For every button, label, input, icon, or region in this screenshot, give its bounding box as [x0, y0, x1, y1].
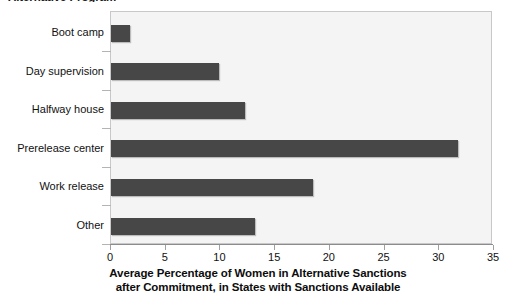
x-axis-tick-label: 0 — [90, 251, 130, 263]
y-axis-label: Work release — [0, 180, 104, 193]
bar — [111, 102, 245, 119]
x-axis-title: Average Percentage of Women in Alternati… — [0, 266, 516, 294]
bar — [111, 63, 219, 80]
x-axis-title-line2: after Commitment, in States with Sanctio… — [0, 280, 516, 294]
x-axis-tick-label: 35 — [473, 251, 513, 263]
plot-area — [110, 11, 492, 244]
x-axis-tick — [329, 245, 330, 250]
x-axis-tick — [165, 245, 166, 250]
x-axis-tick — [219, 245, 220, 250]
x-axis-tick-label: 25 — [364, 251, 404, 263]
bar — [111, 25, 130, 42]
x-axis-tick — [493, 245, 494, 250]
x-axis-tick — [274, 245, 275, 250]
x-axis-line — [110, 244, 493, 245]
x-axis-tick-label: 30 — [418, 251, 458, 263]
x-axis-tick-label: 20 — [309, 251, 349, 263]
x-axis-tick-label: 10 — [199, 251, 239, 263]
x-axis-tick-label: 15 — [254, 251, 294, 263]
x-axis-title-line1: Average Percentage of Women in Alternati… — [109, 267, 406, 279]
y-axis-label: Other — [0, 219, 104, 232]
y-axis-label: Halfway house — [0, 103, 104, 116]
y-axis-label: Boot camp — [0, 26, 104, 39]
x-axis-tick — [438, 245, 439, 250]
bar — [111, 140, 458, 157]
y-axis-label: Prerelease center — [0, 142, 104, 155]
chart-title: Alternative Program — [8, 0, 116, 2]
x-axis-tick — [110, 245, 111, 250]
bars-container — [111, 12, 491, 243]
x-axis-tick-label: 5 — [145, 251, 185, 263]
bar — [111, 218, 255, 235]
y-axis-label: Day supervision — [0, 65, 104, 78]
bar — [111, 179, 313, 196]
bar-chart-figure: Alternative Program Boot campDay supervi… — [0, 0, 516, 303]
x-axis-tick — [384, 245, 385, 250]
